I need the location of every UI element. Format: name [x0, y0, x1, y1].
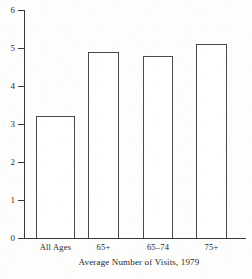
y-axis-tick: 3 — [18, 124, 25, 125]
bar-chart-figure: 0123456 All Ages65+65–7475+ Average Numb… — [0, 0, 252, 279]
y-axis-tick-label: 1 — [11, 196, 16, 205]
bar — [36, 116, 75, 238]
y-axis-tick-label: 3 — [11, 120, 16, 129]
y-axis-tick: 6 — [18, 10, 25, 11]
y-axis-tick-label: 4 — [11, 82, 16, 91]
x-axis-label: 65+ — [76, 243, 131, 252]
chart-caption: Average Number of Visits, 1979 — [0, 258, 252, 267]
bar — [196, 44, 227, 238]
y-axis-tick-label: 0 — [11, 234, 16, 243]
plot-area: 0123456 All Ages65+65–7475+ — [24, 10, 246, 238]
y-axis-tick: 0 — [18, 238, 25, 239]
x-axis-label: 65–74 — [131, 243, 185, 252]
y-axis-tick: 5 — [18, 48, 25, 49]
x-axis-line — [24, 238, 246, 239]
y-axis-tick: 4 — [18, 86, 25, 87]
y-axis-tick-label: 2 — [11, 158, 16, 167]
y-axis-tick: 1 — [18, 200, 25, 201]
bar — [143, 56, 173, 238]
y-axis-tick: 2 — [18, 162, 25, 163]
y-axis-tick-label: 6 — [11, 6, 16, 15]
x-axis-label: 75+ — [184, 243, 239, 252]
y-axis-tick-label: 5 — [11, 44, 16, 53]
bar — [88, 52, 119, 238]
